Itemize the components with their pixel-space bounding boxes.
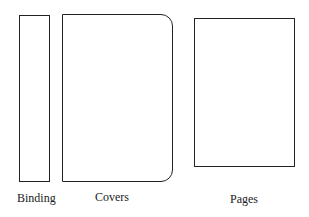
- binding-shape: [19, 15, 50, 182]
- pages-shape: [194, 18, 295, 167]
- pages-label: Pages: [230, 192, 258, 207]
- covers-label: Covers: [95, 190, 129, 205]
- binding-label: Binding: [17, 191, 56, 206]
- covers-shape: [62, 14, 173, 182]
